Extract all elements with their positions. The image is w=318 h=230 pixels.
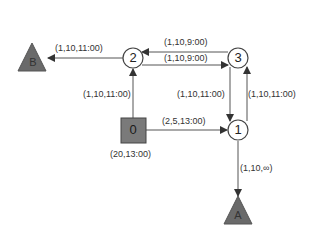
diagram-canvas [0,0,318,230]
edge-0-to-2-label: (1,10,11:00) [83,89,131,99]
network-diagram: 2 3 1 0 B A (20,13:00) (1,10,11:00) (1,1… [0,0,318,230]
node-2-label: 2 [123,48,143,68]
node-0-label: 0 [123,120,143,140]
node-A-label: A [228,205,248,225]
edge-3-to-1-label: (1,10,11:00) [177,89,225,99]
edge-0-to-1-label: (2,5,13:00) [162,116,206,126]
edge-2-to-3-label: (1,10,9:00) [164,53,208,63]
node-0-annotation: (20,13:00) [110,149,151,159]
node-1-label: 1 [228,120,248,140]
edge-1-to-A-label: (1,10,∞) [240,163,272,173]
edge-3-to-2-label: (1,10,9:00) [164,37,208,47]
node-3-label: 3 [228,48,248,68]
node-B-label: B [23,52,43,72]
edge-1-to-3-label: (1,10,11:00) [248,89,296,99]
edge-2-to-B-label: (1,10,11:00) [55,43,103,53]
